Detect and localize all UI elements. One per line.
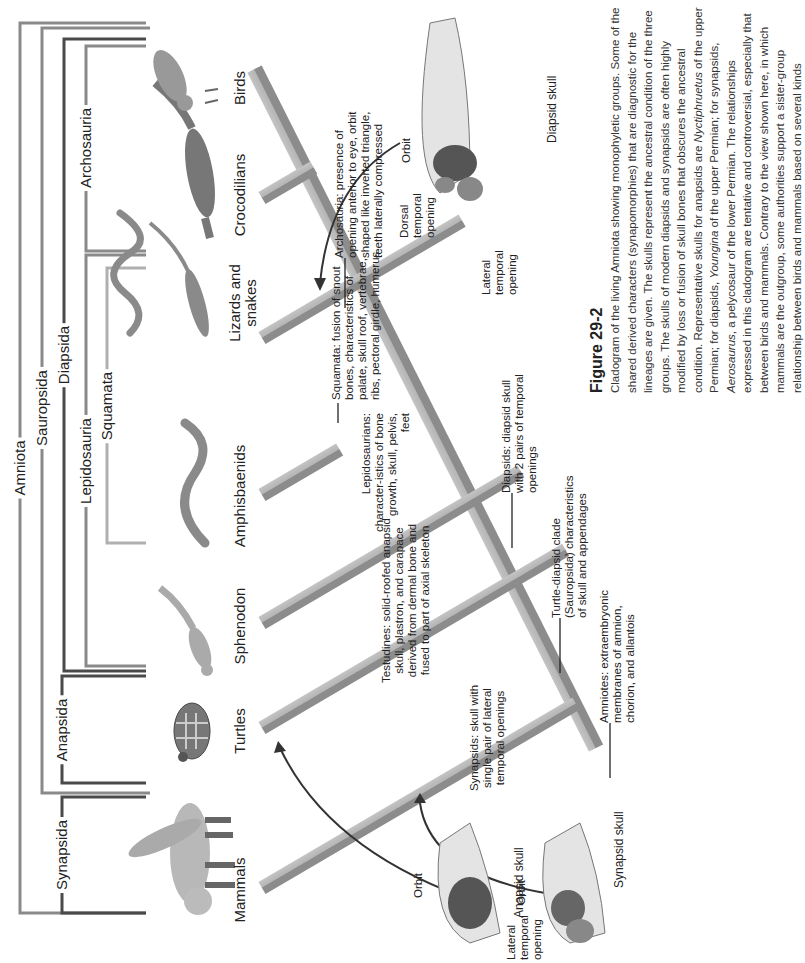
annotation-testudines: Testudines: solid-roofed anapsid skull, … xyxy=(380,513,432,688)
caption-diapsid-skull: Diapsid skull xyxy=(545,76,559,143)
label-diapsid-orbit: Orbit xyxy=(400,138,413,163)
figure-title: Figure 29-2 xyxy=(588,308,606,393)
label-synapsid-lateral-opening: Lateral temporal opening xyxy=(505,910,544,960)
annotation-turtle-diapsid-clade: Turtle-diapsid clade (Sauropsida) charac… xyxy=(550,468,589,618)
annotation-squamata: Squamata: fusion of snout bones, charact… xyxy=(330,240,382,400)
label-anapsid-orbit: Orbit xyxy=(412,873,425,898)
figure-caption: Cladogram of the living Amniota showing … xyxy=(607,5,805,393)
label-diapsid-dorsal-opening: Dorsal temporal opening xyxy=(398,190,437,238)
caption-text: Cladogram of the living Amniota showing … xyxy=(609,8,704,393)
label-diapsid-lateral-opening: Lateral temporal opening xyxy=(480,247,519,295)
caption-taxon-name: Nyctiphruetus xyxy=(692,72,704,142)
annotation-diapsids: Diapsids: diapsid skull with 2 pairs of … xyxy=(500,358,539,493)
synapsid-skull-illustration xyxy=(543,823,605,943)
caption-synapsid-skull: Synapsid skull xyxy=(612,811,626,888)
diapsid-skull-illustration xyxy=(422,18,483,201)
caption-taxon-name: Youngina xyxy=(708,231,720,279)
caption-taxon-name: Aerosaurus xyxy=(725,334,737,393)
annotation-amniotes: Amniotes: extraembryonic membranes of am… xyxy=(598,583,637,723)
annotation-archosauria: Archosauria: presence of opening anterio… xyxy=(333,88,385,258)
caption-text: of the upper Permian; for synapsids, xyxy=(708,43,720,231)
anapsid-skull-illustration xyxy=(438,823,500,943)
label-synapsid-orbit: Orbit xyxy=(515,880,528,905)
annotation-synapsids: Synapsids: skull with single pair of lat… xyxy=(468,673,507,803)
